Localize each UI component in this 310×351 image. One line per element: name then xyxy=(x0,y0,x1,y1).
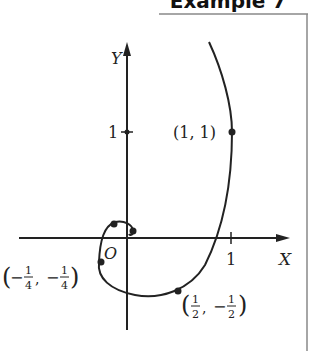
example-title: Example 7 xyxy=(170,0,287,13)
spiral-diagram: Example 7 Y X 1 1 O (1, 1) ( − 1 4 , − 1… xyxy=(0,0,310,351)
svg-text:4: 4 xyxy=(25,279,32,292)
svg-text:,: , xyxy=(35,271,39,287)
x-axis-arrow-icon xyxy=(276,234,290,242)
svg-text:−: − xyxy=(46,268,59,287)
svg-text:2: 2 xyxy=(228,308,235,321)
point-1-1 xyxy=(229,129,236,136)
svg-text:1: 1 xyxy=(228,293,235,306)
point-small-2 xyxy=(130,228,137,235)
svg-text:1: 1 xyxy=(192,293,199,306)
svg-text:4: 4 xyxy=(61,279,68,292)
y-axis-label: Y xyxy=(111,49,123,68)
svg-text:1: 1 xyxy=(61,264,68,277)
svg-text:−: − xyxy=(10,268,23,287)
x-tick-label: 1 xyxy=(226,250,236,269)
origin-label: O xyxy=(104,244,117,263)
svg-text:): ) xyxy=(238,291,247,319)
point-label-half-neg-half: ( 1 2 , − 1 2 ) xyxy=(181,291,247,321)
y-tick-dot xyxy=(125,130,130,135)
svg-text:2: 2 xyxy=(192,308,199,321)
svg-text:(: ( xyxy=(181,291,190,319)
point-label-1-1: (1, 1) xyxy=(173,123,216,142)
y-axis-arrow-icon xyxy=(123,42,131,56)
svg-text:1: 1 xyxy=(25,264,32,277)
svg-text:): ) xyxy=(70,263,79,291)
y-tick-label: 1 xyxy=(108,123,118,142)
svg-text:,: , xyxy=(202,300,206,316)
point-neg-quarter xyxy=(98,259,105,266)
point-label-neg-quarter: ( − 1 4 , − 1 4 ) xyxy=(2,263,79,292)
spiral-curve xyxy=(99,42,232,296)
point-small-1 xyxy=(111,221,118,228)
x-axis-label: X xyxy=(277,249,292,269)
svg-text:−: − xyxy=(213,297,226,316)
